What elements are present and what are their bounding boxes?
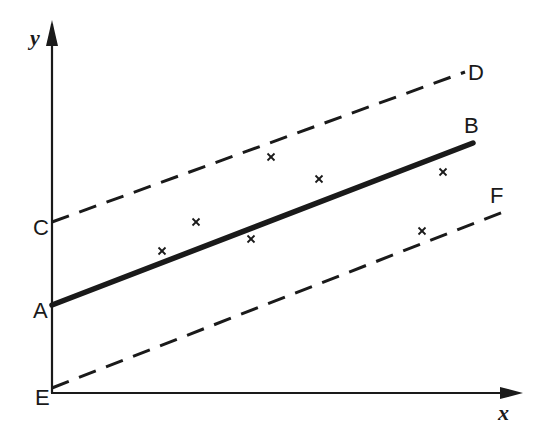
- lower-bound-line-EF: [52, 212, 503, 388]
- data-point-marker-icon: [316, 176, 323, 183]
- label-A: A: [33, 298, 48, 323]
- y-axis-arrow-icon: [46, 20, 58, 46]
- data-point-marker-icon: [440, 169, 447, 176]
- x-axis-label: x: [497, 400, 509, 425]
- lines: [52, 72, 503, 388]
- upper-bound-line-CD: [52, 72, 465, 222]
- data-point-marker-icon: [159, 248, 166, 255]
- label-E: E: [35, 385, 50, 410]
- point-labels: C A E D B F: [33, 60, 503, 410]
- data-point-marker-icon: [193, 219, 200, 226]
- diagram-canvas: y x C A E D B F: [0, 0, 550, 437]
- regression-line-AB: [52, 143, 473, 305]
- data-point-marker-icon: [248, 236, 255, 243]
- x-axis-arrow-icon: [500, 387, 523, 399]
- label-F: F: [490, 183, 503, 208]
- axes: y x: [27, 20, 523, 425]
- regression-diagram: y x C A E D B F: [0, 0, 550, 437]
- label-B: B: [464, 113, 479, 138]
- label-C: C: [33, 215, 49, 240]
- data-point-marker-icon: [268, 154, 275, 161]
- data-point-marker-icon: [419, 228, 426, 235]
- y-axis-label: y: [27, 25, 40, 50]
- label-D: D: [468, 60, 484, 85]
